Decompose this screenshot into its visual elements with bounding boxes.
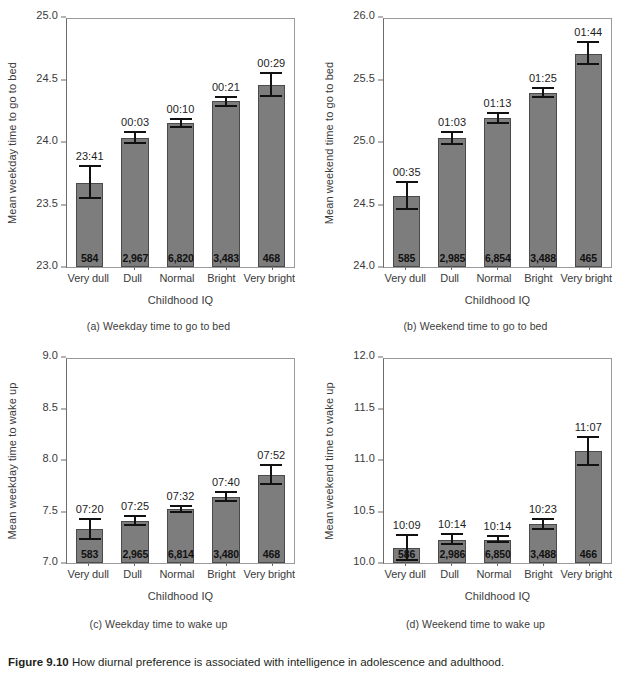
error-bar-cap-top — [124, 131, 146, 133]
bar-series: 58423:412,96700:036,82000:103,48300:2146… — [67, 19, 294, 267]
bar-value-label: 01:44 — [574, 26, 602, 38]
chart-panel-b: Mean weekend time to go to bed24.024.525… — [317, 0, 634, 340]
bar-value-label: 07:20 — [76, 503, 104, 515]
bar-value-label: 00:10 — [167, 103, 195, 115]
bar-value-label: 11:07 — [575, 421, 602, 433]
figure-caption-lead: Figure 9.10 — [8, 656, 69, 668]
x-axis-ticks — [383, 265, 612, 270]
x-axis-tick-label: Dull — [110, 568, 154, 584]
bar-slot: 6,85010:14 — [475, 359, 520, 563]
y-axis-tick-label: 11.0 — [354, 452, 375, 464]
x-axis-tick — [249, 265, 295, 270]
bar: 468 — [258, 475, 285, 563]
x-axis-tick-label: Bright — [516, 272, 560, 288]
bar-value-label: 10:09 — [393, 519, 421, 531]
x-axis-tick-label: Dull — [427, 272, 471, 288]
x-axis-tick — [520, 561, 566, 566]
bar: 3,480 — [212, 497, 239, 563]
bar-slot: 6,81407:32 — [158, 359, 203, 563]
bar-slot: 46807:52 — [249, 359, 294, 563]
bar: 3,488 — [529, 524, 556, 563]
y-axis-tick-label: 24.0 — [353, 259, 375, 271]
y-axis-tick-label: 26.0 — [353, 9, 375, 21]
bar-slot: 58307:20 — [67, 359, 112, 563]
y-axis-tick-label: 24.0 — [36, 134, 58, 146]
y-axis-tick-label: 8.5 — [42, 400, 58, 412]
y-axis-tick-label: 12.0 — [353, 349, 375, 361]
bar-n-label: 6,820 — [168, 252, 193, 264]
x-axis-tick-label: Dull — [110, 272, 154, 288]
bar: 468 — [258, 85, 285, 267]
y-axis-tick: 24.5 — [0, 79, 66, 80]
bar-n-label: 2,985 — [439, 252, 464, 264]
y-axis: 10.010.511.011.512.0 — [317, 358, 383, 564]
x-axis-tick — [475, 265, 521, 270]
x-axis-tick-label: Very bright — [561, 272, 612, 288]
bar-slot: 58500:35 — [384, 19, 429, 267]
panel-subcaption: (d) Weekend time to wake up — [317, 618, 634, 630]
y-axis-tick: 8.0 — [0, 460, 66, 461]
x-axis-tick — [520, 265, 566, 270]
bar-value-label: 00:35 — [393, 166, 421, 178]
y-axis-tick: 9.0 — [0, 357, 66, 358]
y-axis-tick-label: 24.5 — [353, 196, 375, 208]
panel-subcaption: (b) Weekend time to go to bed — [317, 320, 634, 332]
bar-slot: 58610:09 — [384, 359, 429, 563]
x-axis-ticks — [383, 561, 612, 566]
y-axis-tick: 7.5 — [0, 511, 66, 512]
figure-caption: Figure 9.10 How diurnal preference is as… — [8, 655, 626, 671]
y-axis-tick-label: 11.5 — [354, 400, 375, 412]
bar: 583 — [76, 529, 103, 563]
error-bar-cap-top — [532, 518, 554, 520]
y-axis-tick: 10.5 — [317, 511, 383, 512]
x-axis-tick — [429, 265, 475, 270]
x-axis-tick-label: Bright — [516, 568, 560, 584]
x-axis-tick — [429, 561, 475, 566]
x-axis-title: Childhood IQ — [66, 294, 295, 306]
y-axis-tick: 10.0 — [317, 563, 383, 564]
y-axis-tick: 23.0 — [0, 267, 66, 268]
error-bar-cap-top — [79, 165, 101, 167]
bar-slot: 46501:44 — [566, 19, 611, 267]
y-axis-tick-label: 25.5 — [353, 71, 375, 83]
y-axis-tick: 11.0 — [317, 460, 383, 461]
error-bar-cap-top — [170, 118, 192, 120]
panel-grid: Mean weekday time to go to bed23.023.524… — [0, 0, 634, 648]
bar-series: 58500:352,98501:036,85401:133,48801:2546… — [384, 19, 611, 267]
bar-n-label: 3,488 — [530, 252, 555, 264]
y-axis-tick-label: 23.0 — [36, 259, 58, 271]
y-axis-tick: 26.0 — [317, 17, 383, 18]
bar: 465 — [575, 54, 602, 267]
bar-n-label: 6,814 — [168, 548, 193, 560]
bar-n-label: 2,965 — [122, 548, 147, 560]
bar-value-label: 00:21 — [212, 81, 240, 93]
x-axis-tick-label: Normal — [155, 568, 199, 584]
chart-panel-d: Mean weekend time to wake up10.010.511.0… — [317, 340, 634, 640]
bar-slot: 3,48801:25 — [520, 19, 565, 267]
x-axis-tick — [383, 265, 429, 270]
bar: 2,985 — [438, 138, 465, 267]
bar-slot: 6,82000:10 — [158, 19, 203, 267]
y-axis-tick: 11.5 — [317, 408, 383, 409]
error-bar-cap-top — [396, 534, 418, 536]
plot-area: 58423:412,96700:036,82000:103,48300:2146… — [66, 18, 295, 268]
bar-slot: 6,85401:13 — [475, 19, 520, 267]
y-axis-tick: 7.0 — [0, 563, 66, 564]
x-axis-ticks — [66, 265, 295, 270]
x-axis-tick — [566, 265, 612, 270]
x-axis-tick — [158, 561, 204, 566]
bar: 585 — [393, 196, 420, 267]
error-bar-cap-top — [577, 436, 599, 438]
bar-slot: 2,96507:25 — [112, 359, 157, 563]
bar: 584 — [76, 183, 103, 267]
error-bar-cap-top — [487, 112, 509, 114]
error-bar-cap-top — [215, 491, 237, 493]
y-axis-tick: 8.5 — [0, 408, 66, 409]
x-axis-tick — [112, 265, 158, 270]
error-bar-cap-top — [487, 535, 509, 537]
bar-value-label: 07:32 — [167, 490, 195, 502]
bar-slot: 46800:29 — [249, 19, 294, 267]
y-axis-tick: 25.5 — [317, 79, 383, 80]
bar-n-label: 468 — [259, 548, 284, 560]
plot-area: 58500:352,98501:036,85401:133,48801:2546… — [383, 18, 612, 268]
